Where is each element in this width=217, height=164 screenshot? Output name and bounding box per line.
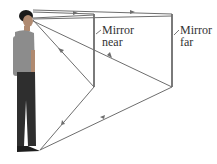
label-line: far: [180, 36, 212, 48]
label-mirror-near: Mirror near: [102, 24, 134, 48]
label-line: near: [102, 36, 134, 48]
person-figure: [13, 10, 40, 152]
label-mirror-far: Mirror far: [180, 24, 212, 48]
mirror-diagram: Mirror near Mirror far: [0, 0, 217, 164]
